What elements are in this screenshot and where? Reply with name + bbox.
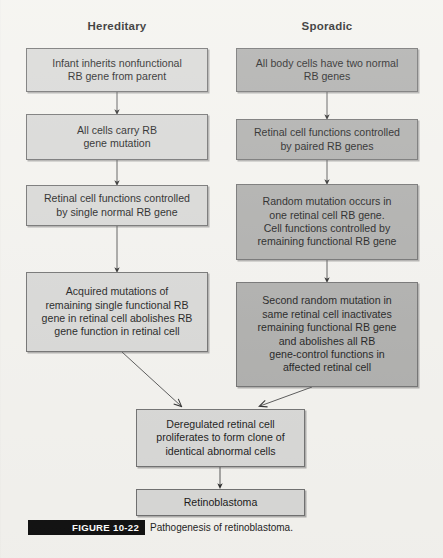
arrow-sporadic-to-shared <box>260 387 312 406</box>
node-hereditary-2-label: All cells carry RB gene mutation <box>77 124 157 151</box>
node-sporadic-4: Second random mutation in same retinal c… <box>236 282 418 387</box>
node-sporadic-3: Random mutation occurs in one retinal ce… <box>236 184 418 260</box>
node-shared-retinoblastoma: Retinoblastoma <box>136 489 305 516</box>
figure-canvas: Hereditary Sporadic <box>0 0 443 558</box>
node-shared-retinoblastoma-label: Retinoblastoma <box>184 496 258 509</box>
node-sporadic-1: All body cells have two normal RB genes <box>236 48 418 92</box>
node-hereditary-1-label: Infant inherits nonfunctional RB gene fr… <box>52 57 182 84</box>
node-hereditary-3-label: Retinal cell functions controlled by sin… <box>44 192 190 219</box>
figure-caption-text: Pathogenesis of retinoblastoma. <box>150 522 293 533</box>
node-shared-deregulated-cell: Deregulated retinal cell proliferates to… <box>136 409 305 467</box>
node-shared-deregulated-cell-label: Deregulated retinal cell proliferates to… <box>156 418 284 458</box>
node-sporadic-1-label: All body cells have two normal RB genes <box>256 57 399 84</box>
node-hereditary-4: Acquired mutations of remaining single f… <box>26 272 208 352</box>
figure-caption: FIGURE 10-22 Pathogenesis of retinoblast… <box>28 520 293 535</box>
node-hereditary-4-label: Acquired mutations of remaining single f… <box>42 285 193 339</box>
node-hereditary-3: Retinal cell functions controlled by sin… <box>26 185 208 226</box>
node-sporadic-2-label: Retinal cell functions controlled by pai… <box>254 126 400 153</box>
node-hereditary-2: All cells carry RB gene mutation <box>26 114 208 160</box>
node-sporadic-3-label: Random mutation occurs in one retinal ce… <box>258 195 397 249</box>
node-sporadic-4-label: Second random mutation in same retinal c… <box>258 294 397 374</box>
node-sporadic-2: Retinal cell functions controlled by pai… <box>236 119 418 160</box>
node-hereditary-1: Infant inherits nonfunctional RB gene fr… <box>26 48 208 92</box>
figure-number-tag: FIGURE 10-22 <box>28 520 145 535</box>
arrow-hereditary-to-shared <box>122 352 181 406</box>
